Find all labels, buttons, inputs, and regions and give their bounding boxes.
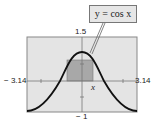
- y-max-label: 1.5: [75, 28, 86, 36]
- x-min-label: − 3.14: [4, 77, 26, 85]
- y-min-label: − 1: [76, 113, 87, 121]
- function-callout: y = cos x: [89, 5, 137, 23]
- shaded-rectangle: [67, 60, 93, 81]
- x-marker-label: x: [91, 83, 95, 92]
- x-max-label: 3.14: [135, 77, 151, 85]
